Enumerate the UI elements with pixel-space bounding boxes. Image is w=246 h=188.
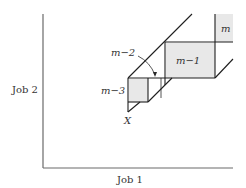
- lower-diagonal-segment-1: [128, 102, 140, 112]
- job-shop-diagram: Job 2 Job 1 m m−1 m−2 m−3 X: [0, 0, 246, 188]
- x-axis-label: Job 1: [116, 174, 143, 185]
- region-m-3-shade: [129, 79, 148, 102]
- point-x-label: X: [123, 115, 132, 126]
- y-axis-label: Job 2: [11, 84, 38, 95]
- lower-diagonal-segment-2: [148, 78, 172, 102]
- region-m-2-label: m−2: [111, 47, 135, 58]
- m-2-arrowhead-icon: [153, 72, 157, 77]
- right-diagonal: [215, 59, 233, 78]
- region-m-1-label: m−1: [176, 55, 200, 66]
- region-m-label: m: [221, 23, 230, 34]
- region-m-3-label: m−3: [101, 85, 125, 96]
